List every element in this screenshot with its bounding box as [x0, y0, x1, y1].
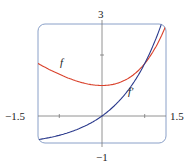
- y-min-label: −1: [96, 152, 108, 163]
- x-max-label: 1.5: [170, 111, 184, 122]
- y-max-label: 3: [98, 9, 104, 20]
- x-min-label: −1.5: [5, 111, 25, 122]
- plot-area: [0, 0, 193, 166]
- f-label: f: [60, 57, 63, 68]
- f-prime-label: f′: [128, 86, 133, 97]
